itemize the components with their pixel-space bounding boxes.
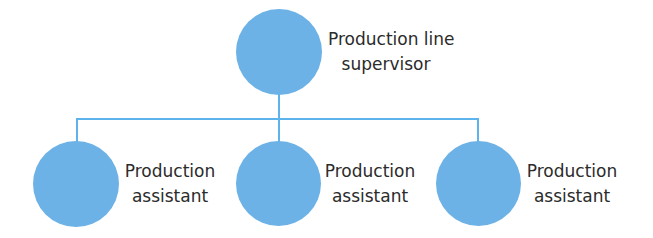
connector-top-vertical xyxy=(278,94,280,120)
supervisor-label-line2: supervisor xyxy=(328,52,444,77)
assistant-label-3: Production assistant xyxy=(524,159,620,209)
supervisor-label: Production line supervisor xyxy=(328,27,444,77)
connector-left-vertical xyxy=(76,118,78,142)
assistant-node-1 xyxy=(33,141,119,227)
assistant-label-3-line2: assistant xyxy=(524,184,620,209)
supervisor-label-line1: Production line xyxy=(328,27,444,52)
assistant-label-1-line1: Production xyxy=(122,159,218,184)
assistant-node-3 xyxy=(436,141,521,226)
assistant-label-2: Production assistant xyxy=(322,159,418,209)
assistant-label-2-line1: Production xyxy=(322,159,418,184)
assistant-node-2 xyxy=(236,141,321,226)
assistant-label-3-line1: Production xyxy=(524,159,620,184)
connector-right-vertical xyxy=(477,118,479,142)
assistant-label-1-line2: assistant xyxy=(122,184,218,209)
supervisor-node xyxy=(236,9,322,95)
assistant-label-2-line2: assistant xyxy=(322,184,418,209)
assistant-label-1: Production assistant xyxy=(122,159,218,209)
connector-middle-vertical xyxy=(278,118,280,142)
